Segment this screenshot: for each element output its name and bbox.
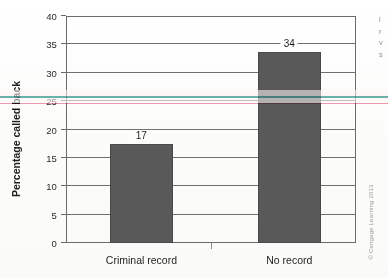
y-axis-title: Percentage called back (10, 81, 22, 197)
bar-value-label: 34 (284, 38, 295, 49)
bar: 17 (110, 144, 173, 243)
y-axis-tick (61, 72, 66, 73)
x-axis-tick-label: No record (266, 254, 312, 266)
cropped-margin-text: lrvs (379, 14, 388, 60)
y-axis-tick-label: 30 (46, 67, 57, 78)
y-axis-tick (61, 15, 66, 16)
y-axis-tick-label: 40 (46, 11, 57, 22)
y-axis-tick-label: 20 (46, 124, 57, 135)
x-axis-center-tick (211, 243, 212, 249)
y-axis-tick-label: 5 (52, 209, 57, 220)
cropped-text-line: r (379, 26, 388, 38)
y-axis-tick (61, 129, 66, 130)
chart-figure: Percentage called back 0510152025303540 … (0, 0, 388, 278)
y-axis-tick-label: 10 (46, 181, 57, 192)
gridline (66, 43, 356, 44)
y-axis-tick-label: 25 (46, 96, 57, 107)
bar-value-label: 17 (136, 130, 147, 141)
copyright-credit: © Cengage Learning 2013 (368, 184, 374, 259)
cropped-text-line: s (379, 49, 388, 61)
x-axis-tick-label: Criminal record (106, 254, 177, 266)
y-axis-tick-label: 35 (46, 39, 57, 50)
plot-area: 0510152025303540 1734 Criminal recordNo … (66, 16, 356, 243)
y-axis-tick (61, 185, 66, 186)
y-axis-tick (61, 242, 66, 243)
y-axis-tick (61, 43, 66, 44)
y-axis-tick (61, 214, 66, 215)
y-axis-tick (61, 157, 66, 158)
y-axis-tick-label: 0 (52, 238, 57, 249)
y-axis-tick (61, 100, 66, 101)
y-axis-tick-label: 15 (46, 152, 57, 163)
cropped-text-line: l (379, 14, 388, 26)
cropped-text-line: v (379, 37, 388, 49)
bar: 34 (258, 52, 321, 243)
